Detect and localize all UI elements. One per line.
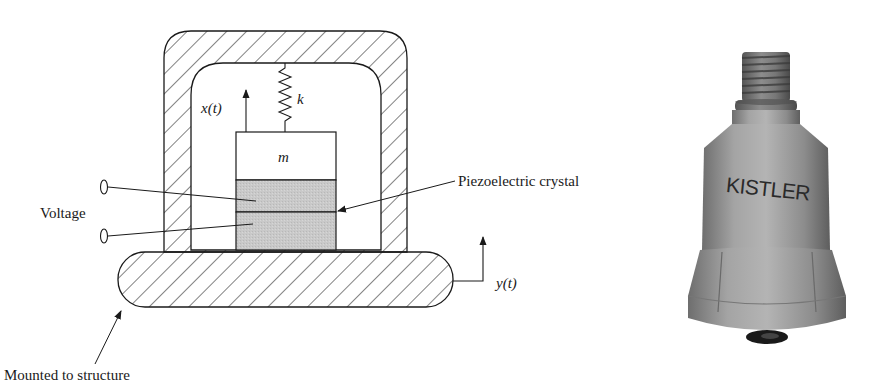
accelerometer-photo: KISTLER [688, 52, 846, 344]
base-displacement-label: y(t) [494, 275, 517, 292]
spring-icon [279, 63, 291, 132]
piezoelectric-crystal [236, 180, 336, 250]
mass-displacement-label: x(t) [200, 100, 222, 117]
accelerometer-figure: k m x(t) Voltage Piezoelectric crystal y… [0, 0, 873, 385]
mass-label: m [278, 149, 289, 165]
voltage-label: Voltage [40, 205, 86, 221]
threaded-stud [742, 52, 790, 102]
figure-canvas: k m x(t) Voltage Piezoelectric crystal y… [0, 0, 873, 385]
terminal-top-icon [101, 180, 108, 194]
base-plate [118, 252, 453, 307]
base-displacement-arrow [453, 237, 483, 281]
mount-callout-arrow [95, 311, 121, 364]
terminal-bottom-icon [101, 229, 108, 243]
accelerometer-diagram: k m x(t) Voltage Piezoelectric crystal y… [4, 31, 579, 383]
crystal-label: Piezoelectric crystal [458, 173, 579, 189]
mount-label: Mounted to structure [4, 367, 130, 383]
spring-constant-label: k [297, 91, 304, 107]
